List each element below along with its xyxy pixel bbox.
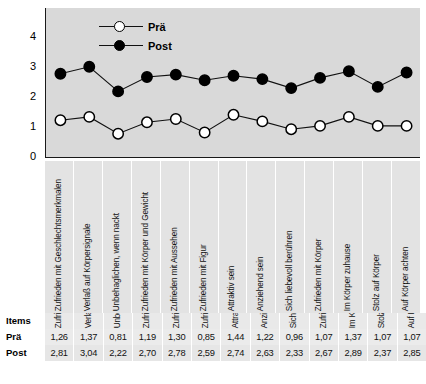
data-point-pra bbox=[142, 117, 152, 127]
data-point-post bbox=[257, 74, 267, 84]
table-cell: Zufrieden mit Aussehen bbox=[163, 313, 192, 329]
data-point-post bbox=[113, 86, 123, 96]
x-axis-label-cell: Anziehend sein bbox=[247, 161, 276, 313]
table-cell: 0,81 bbox=[104, 329, 133, 345]
data-point-post bbox=[315, 73, 325, 83]
data-point-pra bbox=[315, 121, 325, 131]
row-label-post: Post bbox=[0, 348, 45, 358]
table-cell: 2,85 bbox=[398, 345, 426, 361]
table-header-abbrev: Anziehend sein bbox=[261, 313, 269, 328]
data-point-post bbox=[199, 75, 209, 85]
table-cell: 1,07 bbox=[368, 329, 397, 345]
data-point-pra bbox=[228, 110, 238, 120]
y-axis: 4 3 2 1 0 bbox=[0, 8, 43, 160]
x-axis-label-cell: Zufrieden mit Geschlechtsmerkmalen bbox=[45, 161, 74, 313]
table-header-abbrev: Auf Körper achten bbox=[408, 313, 416, 328]
table-cell: 2,89 bbox=[339, 345, 368, 361]
table-cell: Zufrieden mit Figur bbox=[192, 313, 221, 329]
table-cell: 1,07 bbox=[310, 329, 339, 345]
x-axis-label-text: Zufrieden mit Körper und Gewicht bbox=[142, 192, 150, 311]
x-axis-label-cell: Attraktiv sein bbox=[219, 161, 248, 313]
table-cell: Stolz auf Körper bbox=[368, 313, 397, 329]
table-header-abbrev: Attraktiv sein bbox=[231, 313, 239, 328]
y-tick-4: 4 bbox=[30, 31, 36, 42]
x-axis-label-text: Stolz auf Körper bbox=[373, 254, 381, 311]
table-cell: 1,37 bbox=[339, 329, 368, 345]
table-cell: 2,78 bbox=[163, 345, 192, 361]
table-cell: 2,70 bbox=[133, 345, 162, 361]
x-axis-label-cell: Zufrieden mit Körper und Gewicht bbox=[132, 161, 161, 313]
table-cell: 1,37 bbox=[74, 329, 103, 345]
x-axis-label-cell: Verlaß auf Körpersignale bbox=[74, 161, 103, 313]
table-header-abbrev: Sich liebevoll berühren bbox=[290, 313, 298, 328]
table-cell: 0,85 bbox=[192, 329, 221, 345]
y-tick-1: 1 bbox=[30, 121, 36, 132]
table-cell: 1,22 bbox=[251, 329, 280, 345]
table-cell: Zufrieden mit Körper und Gewicht bbox=[133, 313, 162, 329]
chart-legend: Prä Post bbox=[99, 17, 207, 55]
legend-label-pra: Prä bbox=[143, 21, 166, 33]
x-axis-label-cell: Stolz auf Körper bbox=[363, 161, 392, 313]
table-header-abbrev: Zufrieden mit Figur bbox=[202, 313, 210, 328]
table-header-abbrev: Verlaß auf Körpersignale bbox=[84, 313, 92, 328]
table-header-abbrev: Im Körper zuhause bbox=[349, 313, 357, 328]
items-row-cells: Zufrieden mit GeschlechtsmerkmalenVerlaß… bbox=[45, 313, 426, 329]
data-point-post bbox=[344, 66, 354, 76]
x-axis-label-text: Zufrieden mit Körper bbox=[315, 238, 323, 311]
data-point-post bbox=[373, 82, 383, 92]
data-point-pra bbox=[171, 114, 181, 124]
table-cell: 2,33 bbox=[280, 345, 309, 361]
data-point-pra bbox=[344, 112, 354, 122]
data-point-post bbox=[286, 83, 296, 93]
table-header-abbrev: Zufrieden mit Körper bbox=[320, 313, 328, 328]
data-point-post bbox=[171, 69, 181, 79]
table-cell: Zufrieden mit Geschlechtsmerkmalen bbox=[45, 313, 74, 329]
x-axis-label-text: Anziehend sein bbox=[257, 256, 265, 311]
data-point-pra bbox=[199, 127, 209, 137]
table-cell: Anziehend sein bbox=[251, 313, 280, 329]
table-row-post: Post 2,813,042,222,702,782,592,742,632,3… bbox=[0, 345, 426, 361]
plot-area: Prä Post bbox=[45, 8, 420, 158]
x-axis-label-text: Unbehaglichen, wenn nackt bbox=[113, 213, 121, 311]
row-label-pra: Prä bbox=[0, 332, 45, 342]
x-axis-label-cell: Im Körper zuhause bbox=[334, 161, 363, 313]
x-axis-label-cell: Unbehaglichen, wenn nackt bbox=[103, 161, 132, 313]
x-axis-label-cell: Zufrieden mit Figur bbox=[190, 161, 219, 313]
data-point-post bbox=[228, 71, 238, 81]
table-cell: 1,07 bbox=[398, 329, 426, 345]
table-header-abbrev: Zufrieden mit Aussehen bbox=[173, 313, 181, 328]
table-cell: 2,81 bbox=[45, 345, 74, 361]
x-axis-label-text: Verlaß auf Körpersignale bbox=[84, 223, 92, 311]
table-row-items: Items Zufrieden mit Geschlechtsmerkmalen… bbox=[0, 313, 426, 329]
data-point-post bbox=[55, 69, 65, 79]
table-cell: Auf Körper achten bbox=[398, 313, 426, 329]
data-point-post bbox=[142, 72, 152, 82]
data-point-pra bbox=[84, 112, 94, 122]
x-axis-label-cell: Zufrieden mit Körper bbox=[305, 161, 334, 313]
data-point-pra bbox=[113, 129, 123, 139]
open-circle-marker-icon bbox=[99, 20, 143, 34]
legend-entry-post: Post bbox=[99, 36, 207, 55]
data-point-pra bbox=[401, 121, 411, 131]
table-header-abbrev: Zufrieden mit Körper und Gewicht bbox=[143, 313, 151, 328]
table-cell: 3,04 bbox=[74, 345, 103, 361]
table-cell: 2,59 bbox=[192, 345, 221, 361]
body-image-chart-figure: 4 3 2 1 0 Prä Post Zufrieden mit Geschle… bbox=[0, 0, 426, 384]
post-row-cells: 2,813,042,222,702,782,592,742,632,332,67… bbox=[45, 345, 426, 361]
table-header-abbrev: Stolz auf Körper bbox=[378, 313, 386, 328]
x-axis-label-text: Sich liebevoll berühren bbox=[286, 230, 294, 311]
x-axis-label-text: Zufrieden mit Aussehen bbox=[171, 227, 179, 311]
table-cell: 1,26 bbox=[45, 329, 74, 345]
table-cell: 0,96 bbox=[280, 329, 309, 345]
data-point-post bbox=[84, 62, 94, 72]
table-cell: 1,30 bbox=[163, 329, 192, 345]
data-point-pra bbox=[286, 124, 296, 134]
table-cell: Attraktiv sein bbox=[221, 313, 250, 329]
legend-entry-pra: Prä bbox=[99, 17, 207, 36]
table-cell: Zufrieden mit Körper bbox=[310, 313, 339, 329]
table-cell: 2,22 bbox=[104, 345, 133, 361]
data-point-post bbox=[401, 67, 411, 77]
table-cell: Im Körper zuhause bbox=[339, 313, 368, 329]
x-axis-label-cell: Auf Körper achten bbox=[392, 161, 420, 313]
data-point-pra bbox=[373, 121, 383, 131]
